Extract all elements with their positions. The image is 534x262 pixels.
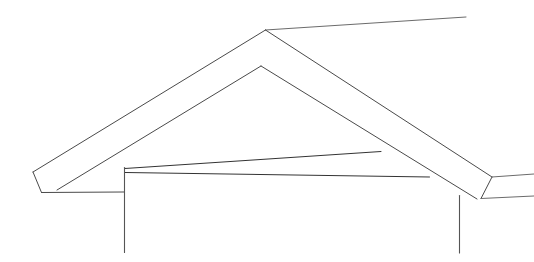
roof-truss-drawing-canvas bbox=[0, 0, 534, 262]
left-soffit-line bbox=[42, 192, 125, 193]
drawing-background bbox=[0, 0, 534, 262]
roof-truss-svg bbox=[0, 0, 534, 262]
